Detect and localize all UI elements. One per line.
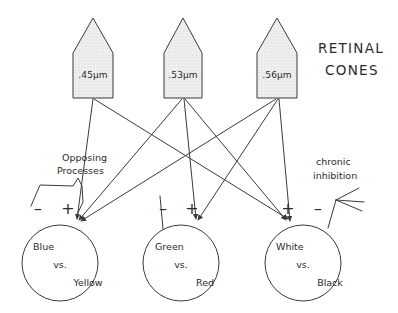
heading-line-1: RETINAL [318,40,384,56]
cone-group: .45µm .53µm .56µm [73,18,297,98]
channel-white-black-sign-right: – [314,199,322,218]
cone-short-wavelength-shape [73,18,113,98]
channel-white-black-sign-left: + [281,199,294,218]
channel-blue-yellow: – + Blue vs. Yellow [22,199,103,301]
cone-long-wavelength: .56µm [257,18,297,98]
channel-green-red-line-3: Red [196,277,214,288]
channel-blue-yellow-sign-right: + [61,199,74,218]
opposing-processes-line-1: Opposing [62,152,107,163]
cone-medium-wavelength-shape [164,18,202,98]
channel-blue-yellow-line-2: vs. [53,259,67,270]
channel-white-black-line-1: White [276,241,304,252]
channel-white-black-line-3: Black [317,277,343,288]
channel-green-red: – + Green vs. Red [143,196,219,301]
cone-medium-wavelength-label: .53µm [168,70,197,80]
cone-medium-wavelength: .53µm [164,18,202,98]
opposing-processes-line-2: Processes [57,165,104,176]
chronic-inhibition-line-1: chronic [316,156,351,167]
heading-retinal-cones: RETINAL CONES [318,40,384,78]
heading-line-2: CONES [325,62,379,78]
channel-white-black-line-2: vs. [296,259,310,270]
diagram-canvas: .45µm .53µm .56µm RETINAL CONES [0,0,398,313]
link-cone3-to-green-red [198,99,278,220]
cone-short-wavelength-label: .45µm [78,70,107,80]
channel-blue-yellow-sign-left: – [34,199,42,218]
retinal-cones-diagram: .45µm .53µm .56µm RETINAL CONES [0,0,398,313]
channel-green-red-line-2: vs. [174,259,188,270]
channel-green-red-sign-left: – [159,199,167,218]
cone-long-wavelength-label: .56µm [262,70,291,80]
channel-blue-yellow-line-1: Blue [33,241,54,252]
channel-green-red-line-1: Green [155,241,184,252]
connection-lines [77,99,290,221]
channel-green-red-sign-right: + [185,199,198,218]
link-cone3-to-blue-yellow [81,99,276,221]
cone-short-wavelength: .45µm [73,18,113,98]
channel-blue-yellow-line-3: Yellow [72,277,102,288]
chronic-inhibition-line-2: inhibition [313,170,357,181]
chronic-inhibition-stem [328,200,336,228]
link-cone2-to-white-black [185,99,286,220]
cone-long-wavelength-shape [257,18,297,98]
chronic-inhibition-branch-upper [336,188,359,200]
